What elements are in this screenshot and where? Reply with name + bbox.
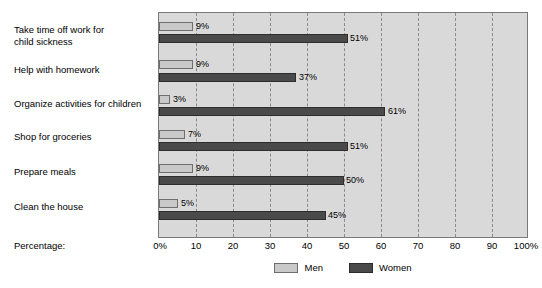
gridline-80 — [455, 13, 456, 237]
category-label-0: Take time off work for child sickness — [14, 24, 154, 47]
bar-men-3 — [159, 130, 185, 139]
bar-men-5 — [159, 199, 178, 208]
tick-label-30: 30 — [258, 240, 282, 251]
bar-value-men-4: 9% — [196, 164, 209, 173]
tick-label-90: 90 — [480, 240, 504, 251]
category-label-4-line1: Prepare meals — [14, 166, 154, 178]
legend-item-men: Men — [274, 262, 322, 273]
category-label-0-line2: child sickness — [14, 36, 154, 48]
tick-label-0: 0% — [148, 240, 172, 251]
gridline-70 — [418, 13, 419, 237]
category-label-3-line1: Shop for groceries — [14, 131, 154, 143]
category-label-0-line1: Take time off work for — [14, 24, 154, 36]
plot-area — [158, 12, 528, 238]
percentage-axis-label: Percentage: — [14, 240, 65, 251]
bar-value-men-5: 5% — [181, 199, 194, 208]
bar-women-4 — [159, 176, 344, 185]
legend-swatch-men-icon — [274, 263, 298, 273]
legend-label-men: Men — [304, 262, 322, 273]
gridline-90 — [492, 13, 493, 237]
tick-label-60: 60 — [369, 240, 393, 251]
bar-women-0 — [159, 34, 348, 43]
gridline-50 — [344, 13, 345, 237]
bar-women-3 — [159, 142, 348, 151]
tick-label-70: 70 — [406, 240, 430, 251]
bar-value-women-2: 61% — [388, 107, 406, 116]
category-label-3: Shop for groceries — [14, 131, 154, 143]
gridline-40 — [307, 13, 308, 237]
bar-women-5 — [159, 211, 326, 220]
tick-label-10: 10 — [184, 240, 208, 251]
chart-legend: Men Women — [158, 262, 528, 273]
bar-value-men-1: 9% — [196, 60, 209, 69]
bar-men-4 — [159, 164, 193, 173]
bar-value-men-2: 3% — [173, 95, 186, 104]
chart-container: Take time off work for child sickness He… — [0, 0, 542, 288]
category-label-5-line1: Clean the house — [14, 201, 154, 213]
bar-women-1 — [159, 73, 296, 82]
gridline-10 — [196, 13, 197, 237]
tick-label-80: 80 — [443, 240, 467, 251]
legend-item-women: Women — [349, 262, 412, 273]
category-label-4: Prepare meals — [14, 166, 154, 178]
tick-label-20: 20 — [221, 240, 245, 251]
tick-label-100: 100% — [512, 240, 540, 251]
bar-value-men-0: 9% — [196, 22, 209, 31]
legend-label-women: Women — [379, 262, 412, 273]
category-label-5: Clean the house — [14, 201, 154, 213]
bar-value-men-3: 7% — [188, 130, 201, 139]
bar-men-0 — [159, 22, 193, 31]
bar-women-2 — [159, 107, 385, 116]
gridline-30 — [270, 13, 271, 237]
bar-men-2 — [159, 95, 170, 104]
category-label-2-line1: Organize activities for children — [14, 98, 154, 110]
category-label-1-line1: Help with homework — [14, 64, 154, 76]
gridline-20 — [233, 13, 234, 237]
gridline-60 — [381, 13, 382, 237]
bar-men-1 — [159, 60, 193, 69]
category-label-2: Organize activities for children — [14, 98, 154, 110]
tick-label-40: 40 — [295, 240, 319, 251]
bar-value-women-4: 50% — [346, 176, 364, 185]
legend-swatch-women-icon — [349, 263, 373, 273]
bar-value-women-1: 37% — [299, 73, 317, 82]
bar-value-women-3: 51% — [350, 142, 368, 151]
tick-label-50: 50 — [332, 240, 356, 251]
bar-value-women-0: 51% — [350, 34, 368, 43]
bar-value-women-5: 45% — [328, 211, 346, 220]
category-label-1: Help with homework — [14, 64, 154, 76]
